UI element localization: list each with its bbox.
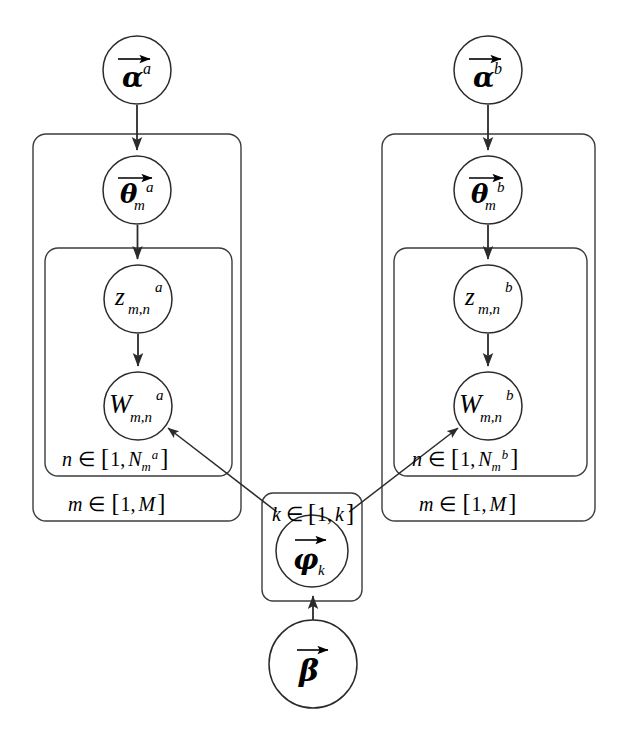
node-alpha-b-symbol: α [473,61,495,94]
node-z-m-n-a-superscript: a [155,279,163,295]
node-beta-symbol: β [298,653,319,688]
node-w-m-n-a[interactable]: W m,n a [104,372,172,440]
node-theta-m-b-subscript: m [485,197,496,213]
node-z-m-n-b[interactable]: z m,n b [454,265,522,333]
node-theta-m-a[interactable]: θ m a [103,156,171,224]
node-w-m-n-a-subscript: m,n [130,409,152,425]
svg-text:n∈[1,Nma]: n∈[1,Nma] [62,444,168,474]
node-w-m-n-b-subscript: m,n [480,409,502,425]
node-theta-m-b[interactable]: θ m b [454,156,522,224]
plate-diagram-root: α a θ m a z m,n a W m,n a α [0,0,618,733]
svg-text:k∈[1,k]: k∈[1,k] [272,499,354,526]
node-phi-k-symbol: φ [293,543,319,576]
node-theta-m-a-subscript: m [134,197,145,213]
node-z-m-n-a-subscript: m,n [128,301,150,317]
node-phi-k-subscript: k [318,562,325,578]
node-alpha-b-superscript: b [494,60,502,77]
node-theta-m-a-superscript: a [146,179,154,195]
node-alpha-a-superscript: a [143,60,151,77]
node-z-m-n-b-superscript: b [505,279,513,295]
node-alpha-a-symbol: α [122,61,144,94]
node-w-m-n-a-superscript: a [156,387,164,403]
plate-m-a-label: m∈[1,M] [68,489,165,516]
plate-labels-layer: n∈[1,Nma] m∈[1,M] n∈[1,Nmb] m∈[1,M] k∈[1… [62,444,518,526]
plate-m-b-label: m∈[1,M] [419,489,516,516]
edge-phi-to-w-a [168,428,277,512]
node-z-m-n-b-symbol: z [464,283,475,310]
plate-n-b-label: n∈[1,Nmb] [412,444,518,474]
svg-text:m∈[1,M]: m∈[1,M] [419,489,516,516]
node-w-m-n-b-superscript: b [506,387,514,403]
node-z-m-n-a-symbol: z [114,283,125,310]
node-alpha-a[interactable]: α a [103,36,171,104]
node-z-m-n-b-subscript: m,n [478,301,500,317]
node-z-m-n-a[interactable]: z m,n a [104,265,172,333]
node-beta[interactable]: β [269,620,357,708]
graphical-model-canvas: α a θ m a z m,n a W m,n a α [0,0,618,733]
node-w-m-n-b[interactable]: W m,n b [454,372,522,440]
svg-text:n∈[1,Nmb]: n∈[1,Nmb] [412,444,518,474]
plate-n-a-label: n∈[1,Nma] [62,444,168,474]
node-alpha-b[interactable]: α b [454,36,522,104]
node-theta-m-b-superscript: b [497,179,505,195]
plate-k-label: k∈[1,k] [272,499,354,526]
svg-text:m∈[1,M]: m∈[1,M] [68,489,165,516]
